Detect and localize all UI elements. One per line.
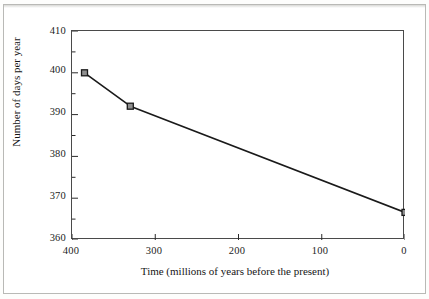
ytick-label-370: 370 (32, 190, 66, 201)
xtick-label-300: 300 (134, 245, 174, 256)
xtick-label-0: 0 (384, 245, 424, 256)
xtick-label-100: 100 (300, 245, 340, 256)
plot-area (71, 30, 404, 239)
x-axis-title: Time (millions of years before the prese… (60, 265, 410, 277)
xtick-label-200: 200 (217, 245, 257, 256)
ytick-label-380: 380 (32, 148, 66, 159)
x-major-ticks (72, 234, 405, 240)
ytick-label-410: 410 (32, 25, 66, 36)
xtick-label-400: 400 (51, 245, 91, 256)
scan-shading (4, 5, 425, 8)
chart-canvas (72, 31, 405, 240)
ytick-label-360: 360 (32, 232, 66, 243)
ytick-label-400: 400 (32, 64, 66, 75)
data-line (85, 73, 406, 213)
figure-root: 410 400 390 380 370 360 400 300 200 100 … (0, 0, 429, 299)
y-minor-ticks (72, 52, 76, 219)
ytick-label-390: 390 (32, 106, 66, 117)
y-axis-title: Number of days per year (10, 12, 22, 172)
